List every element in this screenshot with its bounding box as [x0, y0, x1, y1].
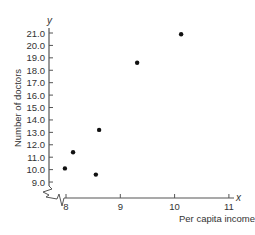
y-tick-label: 19.0 [27, 52, 46, 63]
data-point [71, 150, 75, 154]
y-tick-label: 21.0 [27, 28, 46, 39]
data-points [63, 32, 184, 177]
x-axis-label: Per capita income [179, 213, 255, 224]
x-tick-label: 11 [224, 201, 234, 212]
y-axis-label: Number of doctors [12, 69, 23, 147]
x-tick-label: 10 [169, 201, 180, 212]
data-point [97, 128, 101, 132]
y-tick-label: 11.0 [27, 152, 45, 163]
x-tick-label: 9 [118, 201, 123, 212]
y-tick-label: 14.0 [27, 114, 46, 125]
x-axis-symbol: x [235, 192, 242, 203]
y-axis: 9.010.011.012.013.014.015.016.017.018.01… [27, 28, 65, 207]
data-point [135, 61, 139, 65]
y-tick-label: 10.0 [27, 164, 46, 175]
y-tick-label: 18.0 [27, 65, 46, 76]
y-axis-symbol: y [46, 15, 53, 26]
y-tick-label: 13.0 [27, 127, 46, 138]
data-point [63, 166, 67, 170]
data-point [179, 32, 183, 36]
scatter-chart: 9.010.011.012.013.014.015.016.017.018.01… [0, 0, 255, 235]
data-point [94, 172, 98, 176]
y-tick-label: 16.0 [27, 90, 46, 101]
y-tick-label: 9.0 [32, 177, 45, 188]
y-tick-label: 20.0 [27, 40, 46, 51]
y-tick-label: 17.0 [27, 77, 46, 88]
chart-svg: 9.010.011.012.013.014.015.016.017.018.01… [0, 0, 255, 235]
y-tick-label: 12.0 [27, 139, 46, 150]
x-tick-label: 8 [63, 201, 68, 212]
y-tick-label: 15.0 [27, 102, 46, 113]
x-axis: 891011 [63, 194, 234, 212]
